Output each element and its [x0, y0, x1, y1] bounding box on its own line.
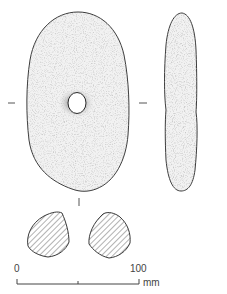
perforation-hole — [68, 93, 86, 114]
scale-bar — [17, 279, 139, 284]
artifact-drawing — [0, 0, 227, 294]
section-right — [89, 213, 130, 258]
front-view — [27, 12, 129, 191]
scale-label-start: 0 — [14, 264, 20, 274]
side-profile — [165, 13, 198, 191]
scale-label-end: 100 — [130, 264, 147, 274]
scale-unit: mm — [143, 278, 160, 288]
section-left — [28, 212, 69, 257]
